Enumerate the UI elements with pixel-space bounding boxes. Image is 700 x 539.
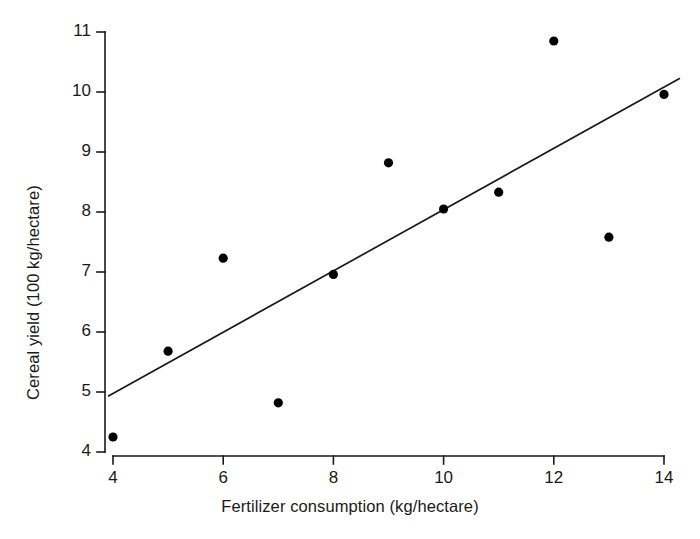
plot-canvas xyxy=(0,0,700,539)
trendline xyxy=(108,78,680,396)
data-point xyxy=(439,204,448,213)
x-tick-label-4: 4 xyxy=(93,468,133,488)
data-point xyxy=(604,233,613,242)
x-tick-label-8: 8 xyxy=(313,468,353,488)
x-tick-label-10: 10 xyxy=(424,468,464,488)
data-point xyxy=(549,36,558,45)
y-tick-label-4: 4 xyxy=(57,441,91,461)
x-tick-label-6: 6 xyxy=(203,468,243,488)
axes-group xyxy=(105,32,664,456)
x-tick-label-14: 14 xyxy=(644,468,684,488)
y-tick-label-9: 9 xyxy=(57,141,91,161)
data-point xyxy=(219,254,228,263)
y-axis-label: Cereal yield (100 kg/hectare) xyxy=(24,185,43,400)
y-tick-label-5: 5 xyxy=(57,381,91,401)
data-point xyxy=(164,347,173,356)
data-point xyxy=(274,398,283,407)
tick-marks-group xyxy=(97,32,664,464)
y-axis-label-container: Cereal yield (100 kg/hectare) xyxy=(0,0,36,480)
data-point xyxy=(659,90,668,99)
y-tick-label-11: 11 xyxy=(57,21,91,41)
regression-line xyxy=(108,78,680,396)
y-tick-label-8: 8 xyxy=(57,201,91,221)
y-tick-label-10: 10 xyxy=(57,81,91,101)
y-tick-label-6: 6 xyxy=(57,321,91,341)
data-point xyxy=(384,158,393,167)
data-points-group xyxy=(108,36,668,441)
data-point xyxy=(494,188,503,197)
scatter-plot-figure: Cereal yield (100 kg/hectare) Fertilizer… xyxy=(0,0,700,539)
y-tick-label-7: 7 xyxy=(57,261,91,281)
data-point xyxy=(329,270,338,279)
x-tick-label-12: 12 xyxy=(534,468,574,488)
data-point xyxy=(108,432,117,441)
x-axis-label: Fertilizer consumption (kg/hectare) xyxy=(0,497,700,516)
